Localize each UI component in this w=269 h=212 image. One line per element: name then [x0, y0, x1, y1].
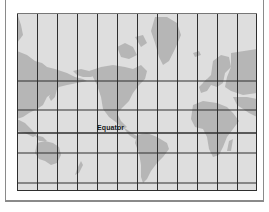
land-middle-east	[233, 97, 257, 117]
land-arctic-islands-2	[135, 35, 147, 47]
land-eurasia	[225, 49, 257, 95]
land-asia-east	[17, 51, 87, 119]
land-madagascar	[227, 139, 233, 151]
equator-label: Equator	[97, 124, 124, 131]
land-arctic-islands	[117, 43, 137, 59]
map-graphic	[17, 13, 257, 191]
land-se-asia	[17, 119, 37, 137]
land-africa	[191, 101, 239, 157]
meridians	[18, 13, 257, 191]
land-indonesia	[35, 135, 47, 141]
land-south-america	[135, 133, 169, 183]
land-new-zealand	[75, 161, 83, 175]
world-map: Equator	[17, 13, 257, 191]
land-greenland	[151, 17, 181, 65]
